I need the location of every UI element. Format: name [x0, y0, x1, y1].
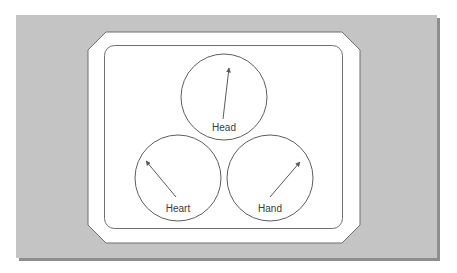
dial-label: Head	[212, 122, 236, 133]
diagram-stage: HeadHeartHand	[0, 0, 457, 273]
dial-head: Head	[181, 54, 267, 140]
dial-label: Hand	[258, 203, 282, 214]
dial-heart: Heart	[135, 135, 221, 221]
dial-label: Heart	[166, 203, 191, 214]
dial-hand: Hand	[227, 135, 313, 221]
head-heart-hand-diagram: HeadHeartHand	[0, 0, 457, 273]
